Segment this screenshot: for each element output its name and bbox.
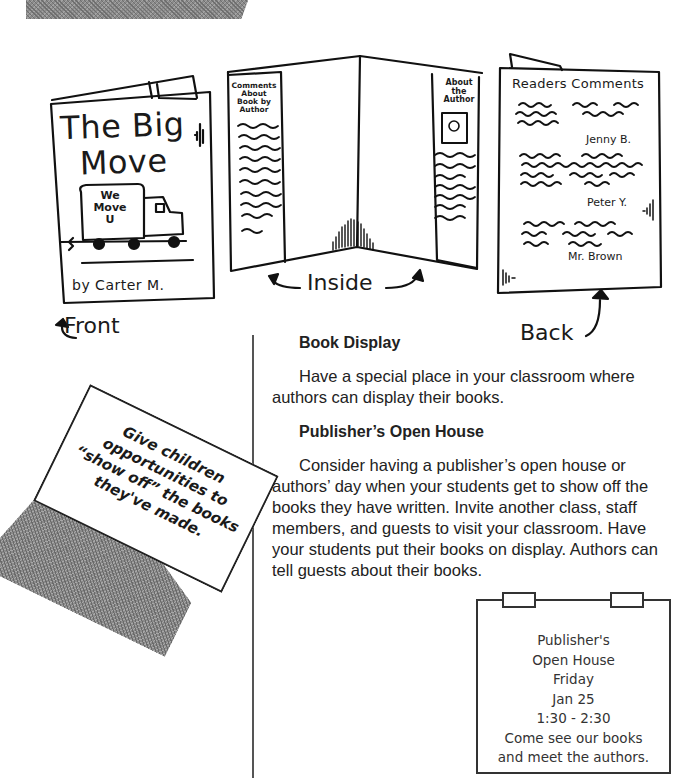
sign-line: 1:30 - 2:30: [478, 709, 669, 729]
heading-line: Author: [229, 106, 279, 114]
sign-line: Publisher's: [478, 631, 669, 651]
commenter-name: Peter Y.: [587, 196, 627, 209]
label-front: Front: [64, 313, 120, 338]
sign-line: Friday: [478, 670, 669, 690]
commenter-name: Mr. Brown: [568, 250, 623, 263]
main-content: Book Display Have a special place in you…: [272, 332, 682, 594]
sign-line: Jan 25: [478, 690, 669, 710]
section-heading-open-house: Publisher’s Open House: [272, 421, 682, 442]
sign-text: Publisher's Open House Friday Jan 25 1:3…: [478, 631, 669, 768]
inside-left-panel-heading: Comments About Book by Author: [229, 82, 279, 114]
sign-clip-right: [610, 592, 644, 608]
label-inside: Inside: [307, 270, 373, 295]
back-book-title: Readers Comments: [512, 76, 644, 91]
truck-text-line-3: U: [84, 214, 136, 226]
sign-clip-left: [502, 592, 536, 608]
inside-right-panel-heading: About the Author: [440, 79, 478, 105]
front-title-line-2: Move: [48, 141, 199, 182]
section-body-open-house: Consider having a publisher’s open house…: [272, 455, 682, 581]
sign-line: Come see our books: [478, 729, 669, 749]
commenter-name: Jenny B.: [586, 133, 631, 146]
heading-line: Author: [440, 96, 478, 105]
truck-sign-text: We Move U: [84, 190, 136, 226]
front-book-byline: by Carter M.: [72, 277, 165, 293]
front-book-title: The Big Move: [47, 105, 199, 182]
back-booklet-drawing: [498, 54, 661, 336]
front-title-line-1: The Big: [47, 105, 198, 146]
open-house-sign: Publisher's Open House Friday Jan 25 1:3…: [476, 599, 671, 774]
sign-line: and meet the authors.: [478, 748, 669, 768]
section-heading-book-display: Book Display: [272, 332, 682, 353]
column-divider: [252, 335, 254, 778]
sign-line: Open House: [478, 651, 669, 671]
section-body-book-display: Have a special place in your classroom w…: [272, 366, 682, 408]
